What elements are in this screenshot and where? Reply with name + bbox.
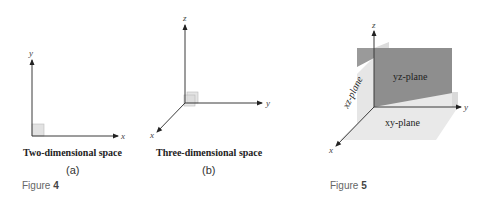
yz-plane-label: yz-plane — [393, 71, 428, 82]
figure4-panel-b: z y x Three-dimensional space (b) — [149, 13, 270, 176]
panel-a-sublabel: (a) — [66, 164, 79, 176]
xy-plane-top-edge — [452, 92, 458, 107]
z-axis-label: z — [371, 20, 376, 30]
panel-b-caption: Three-dimensional space — [156, 147, 263, 158]
x-axis-label: x — [149, 130, 154, 140]
unit-square — [32, 124, 44, 136]
z-axis-label: z — [182, 13, 187, 23]
x-axis — [157, 103, 185, 132]
x-axis-label: x — [120, 131, 125, 141]
figure4-panel-a: y x Two-dimensional space (a) — [23, 48, 125, 176]
panel-a-caption: Two-dimensional space — [23, 147, 123, 158]
unit-cube — [184, 92, 198, 106]
y-axis-label: y — [265, 98, 270, 108]
figure5-diagram: z y x yz-plane xz-plane xy-plane — [328, 20, 468, 155]
y-axis-label: y — [28, 48, 33, 58]
panel-b-sublabel: (b) — [202, 164, 215, 176]
xy-plane-label: xy-plane — [385, 117, 421, 128]
figures-canvas: y x Two-dimensional space (a) z y x Thre… — [0, 0, 488, 201]
figure4-label: Figure 4 — [22, 180, 59, 191]
figure5-label: Figure 5 — [330, 180, 367, 191]
x-axis-label: x — [328, 145, 333, 155]
y-axis-label: y — [463, 102, 468, 112]
